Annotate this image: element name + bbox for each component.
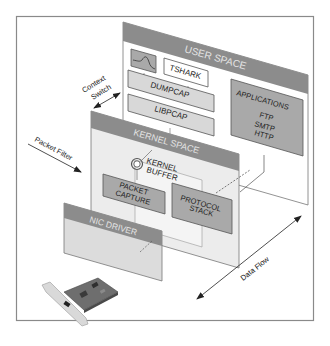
- wireshark-architecture-diagram: USER SPACE TSHARK DUMPCAP LIBPCAP: [0, 0, 330, 346]
